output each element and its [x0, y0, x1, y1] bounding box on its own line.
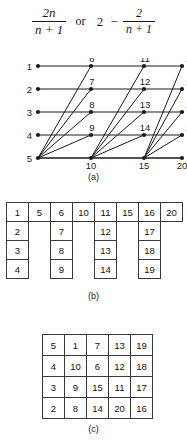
- graph-node: [89, 110, 93, 114]
- table-b-cell: 10: [72, 202, 95, 222]
- table-b-cell: 13: [94, 240, 117, 260]
- table-c-cell: 13: [109, 335, 131, 356]
- formula-expression: 2n n + 1 or 2 − 2 n + 1: [0, 6, 187, 36]
- fraction-numerator: 2n: [32, 6, 66, 21]
- table-c-cell: 9: [65, 377, 87, 398]
- table-b-cell: 5: [28, 202, 51, 222]
- table-c-cell: 15: [87, 377, 109, 398]
- table-c-cell: 10: [65, 356, 87, 377]
- table-b-cell: 4: [6, 259, 29, 279]
- minus-sign: −: [108, 15, 119, 28]
- table-c-cell: 6: [87, 356, 109, 377]
- table-c-cell: 5: [43, 335, 65, 356]
- table-b-cell: 1: [6, 202, 29, 222]
- table-b-cell-empty: [28, 240, 51, 260]
- graph-node: [142, 64, 146, 68]
- graph-edge-fan: [91, 89, 144, 158]
- table-b-column: 20: [161, 203, 183, 279]
- graph-edges: [38, 66, 182, 158]
- graph-node: [180, 87, 184, 91]
- graph-node: [36, 64, 40, 68]
- graph-node-label: 4: [27, 130, 32, 141]
- graph-node-labels: 1234567891011121314151617181920: [27, 58, 187, 170]
- table-b: 1234567891011121314151617181920: [7, 203, 183, 279]
- table-b-cell: 18: [138, 240, 161, 260]
- table-b-column: 6789: [51, 203, 73, 279]
- graph-node-label: 3: [27, 107, 32, 118]
- table-c-cell: 20: [109, 398, 131, 419]
- graph-node-label: 15: [139, 160, 150, 170]
- graph-node: [89, 133, 93, 137]
- table-c-cell: 16: [131, 398, 153, 419]
- fraction-numerator: 2: [123, 7, 155, 21]
- fraction-2-over-n-plus-1: 2 n + 1: [123, 7, 155, 35]
- caption-c: (c): [0, 424, 187, 434]
- graph-node: [180, 64, 184, 68]
- table-c: 5171319410612183915111728142016: [42, 334, 153, 419]
- graph-edge-fan: [144, 135, 182, 158]
- graph-node-label: 5: [27, 153, 32, 164]
- graph-node: [36, 133, 40, 137]
- table-b-cell: 20: [160, 202, 183, 222]
- table-c-cell: 17: [131, 377, 153, 398]
- table-b-cell: 6: [50, 202, 73, 222]
- table-b-cell: 11: [94, 202, 117, 222]
- graph-node-label: 9: [89, 122, 94, 133]
- graph-node-label: 20: [177, 160, 187, 170]
- graph-node-label: 16: [186, 58, 187, 64]
- graph-edge-fan: [38, 89, 91, 158]
- operator-or: or: [69, 15, 91, 27]
- table-b-cell: 16: [138, 202, 161, 222]
- graph-node: [36, 87, 40, 91]
- table-c-cell: 14: [87, 398, 109, 419]
- graph-edge-fan: [38, 135, 91, 158]
- table-c-cell: 11: [109, 377, 131, 398]
- table-c-cell: 8: [65, 398, 87, 419]
- graph-node: [36, 110, 40, 114]
- graph-node: [180, 110, 184, 114]
- graph-node-label: 1: [27, 61, 32, 72]
- graph-node: [180, 133, 184, 137]
- graph-edge-fan: [91, 135, 144, 158]
- graph-node: [89, 64, 93, 68]
- table-b-cell-empty: [28, 221, 51, 241]
- graph-diagram-a: 1234567891011121314151617181920: [0, 58, 187, 170]
- graph-node: [142, 87, 146, 91]
- graph-node-label: 10: [86, 160, 97, 170]
- table-c-cell: 19: [131, 335, 153, 356]
- table-c-cell: 4: [43, 356, 65, 377]
- table-b-cell: 17: [138, 221, 161, 241]
- table-c-cell: 2: [43, 398, 65, 419]
- table-b-cell: 15: [116, 202, 139, 222]
- table-b-cell-empty: [116, 259, 139, 279]
- table-b-column: 16171819: [139, 203, 161, 279]
- caption-a: (a): [0, 172, 187, 182]
- table-b-cell: 9: [50, 259, 73, 279]
- table-c-row: 5171319: [43, 335, 153, 356]
- table-c-cell: 3: [43, 377, 65, 398]
- graph-node-label: 19: [186, 122, 187, 133]
- constant-two: 2: [95, 15, 106, 28]
- table-b-cell-empty: [72, 240, 95, 260]
- table-b-column: 10: [73, 203, 95, 279]
- table-b-column: 5: [29, 203, 51, 279]
- graph-node: [142, 133, 146, 137]
- table-c-row: 28142016: [43, 398, 153, 419]
- table-b-cell-empty: [160, 259, 183, 279]
- graph-node: [89, 87, 93, 91]
- fraction-denominator: n + 1: [123, 22, 155, 36]
- table-b-cell-empty: [28, 259, 51, 279]
- table-b-cell: 19: [138, 259, 161, 279]
- table-c-cell: 12: [109, 356, 131, 377]
- graph-node-label: 2: [27, 84, 32, 95]
- graph-node-label: 14: [140, 122, 151, 133]
- table-b-cell-empty: [160, 240, 183, 260]
- fraction-denominator: n + 1: [32, 22, 66, 37]
- table-b-cell-empty: [116, 240, 139, 260]
- table-b-cell: 7: [50, 221, 73, 241]
- table-b-cell: 14: [94, 259, 117, 279]
- table-b-cell: 8: [50, 240, 73, 260]
- table-c-body: 5171319410612183915111728142016: [43, 335, 153, 419]
- graph-node-label: 6: [89, 58, 94, 64]
- graph-node: [142, 110, 146, 114]
